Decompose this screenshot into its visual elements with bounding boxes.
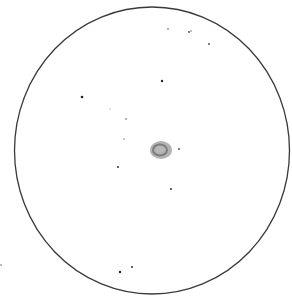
star	[208, 43, 210, 45]
star	[161, 80, 163, 82]
star	[119, 271, 121, 273]
star	[190, 30, 191, 31]
star	[0, 264, 2, 266]
star	[188, 31, 190, 33]
star	[81, 96, 84, 99]
star	[131, 266, 133, 268]
nebula-core	[156, 147, 164, 153]
star	[117, 166, 119, 168]
eyepiece-sketch	[0, 0, 292, 296]
star	[125, 118, 127, 120]
star	[178, 148, 180, 150]
star	[167, 28, 169, 30]
sketch-background	[0, 0, 292, 296]
planetary-nebula	[150, 141, 172, 159]
star	[123, 138, 124, 139]
star	[170, 188, 172, 190]
star	[109, 108, 110, 109]
